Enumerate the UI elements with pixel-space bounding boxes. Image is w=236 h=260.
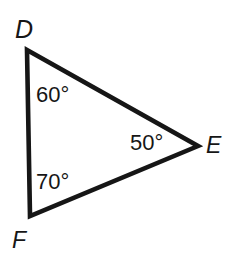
angle-label-at-f: 70° [36,171,69,193]
angle-label-at-d: 60° [36,84,69,106]
triangle-shape [0,0,236,260]
vertex-label-e: E [206,134,221,157]
vertex-label-f: F [12,229,26,252]
geometry-figure: D E F 60° 50° 70° [0,0,236,260]
vertex-label-d: D [15,17,33,42]
angle-label-at-e: 50° [130,132,163,154]
